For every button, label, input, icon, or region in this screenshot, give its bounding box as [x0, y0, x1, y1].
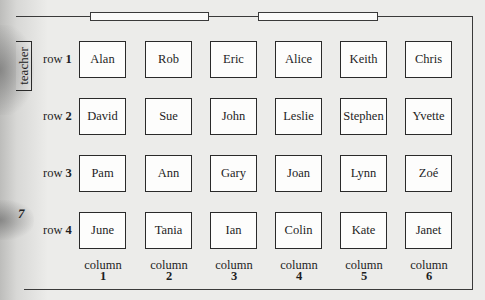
student-desk: John [210, 98, 257, 135]
column-label-3: column3 [204, 260, 264, 282]
student-desk: Kate [340, 212, 387, 249]
student-desk: Eric [210, 41, 257, 78]
student-desk: Joan [275, 155, 322, 192]
row-label-3: row 3 [43, 166, 77, 181]
classroom-wall-right [472, 16, 473, 290]
classroom-wall-bottom [24, 289, 473, 290]
column-label-2: column2 [139, 260, 199, 282]
teacher-desk: teacher [16, 41, 32, 91]
student-desk: Janet [405, 212, 452, 249]
student-desk: Lynn [340, 155, 387, 192]
row-label-4: row 4 [43, 223, 77, 238]
row-label-2: row 2 [43, 109, 77, 124]
student-desk: Leslie [275, 98, 322, 135]
student-desk: Ian [210, 212, 257, 249]
student-desk: Rob [145, 41, 192, 78]
student-desk: Colin [275, 212, 322, 249]
student-desk: Pam [79, 155, 126, 192]
student-desk: Yvette [405, 98, 452, 135]
teacher-label: teacher [16, 47, 32, 85]
student-desk: Alan [79, 41, 126, 78]
student-desk: Zoé [405, 155, 452, 192]
column-label-4: column4 [269, 260, 329, 282]
student-desk: Alice [275, 41, 322, 78]
window-right [258, 12, 378, 21]
student-desk: Chris [405, 41, 452, 78]
student-desk: Keith [340, 41, 387, 78]
column-label-5: column5 [334, 260, 394, 282]
column-label-6: column6 [399, 260, 459, 282]
student-desk: June [79, 212, 126, 249]
student-desk: Sue [145, 98, 192, 135]
student-desk: Gary [210, 155, 257, 192]
student-desk: Stephen [340, 98, 387, 135]
classroom-wall-top [16, 16, 473, 17]
window-left [90, 12, 209, 21]
student-desk: David [79, 98, 126, 135]
student-desk: Ann [145, 155, 192, 192]
row-label-1: row 1 [43, 52, 77, 67]
student-desk: Tania [145, 212, 192, 249]
column-label-1: column1 [73, 260, 133, 282]
